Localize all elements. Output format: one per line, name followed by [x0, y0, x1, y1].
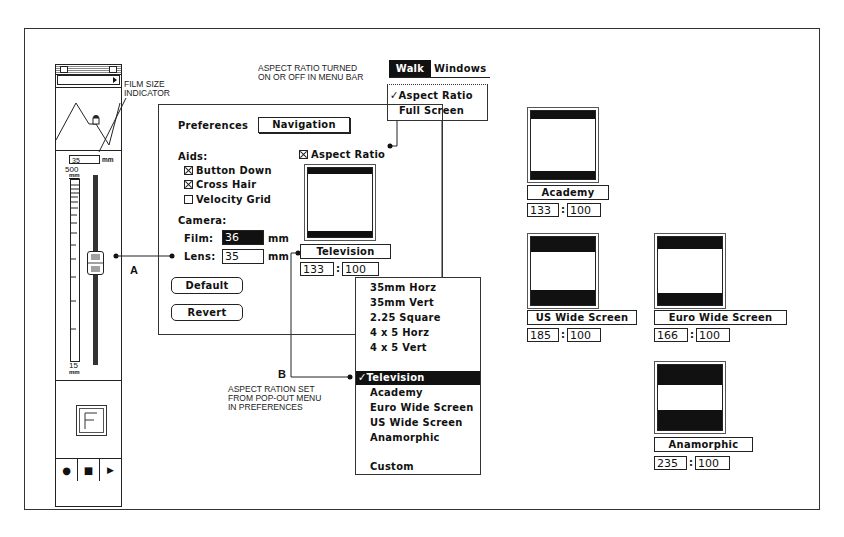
revert-button[interactable]: Revert: [171, 304, 243, 321]
menubar-divider: [389, 77, 490, 78]
ratio-separator: :: [561, 203, 565, 216]
checkbox-unchecked-icon[interactable]: [184, 195, 193, 204]
anamorphic-ratio-width[interactable]: 235: [654, 456, 687, 470]
aspect-button-euro-wide-screen[interactable]: Euro Wide Screen: [654, 310, 787, 325]
aspect-preview-television: [304, 164, 376, 241]
ratio-separator: :: [561, 328, 565, 341]
aspect-button-academy[interactable]: Academy: [527, 185, 609, 200]
lens-input[interactable]: 35: [222, 249, 264, 264]
aids-label: Aids:: [178, 150, 207, 163]
aspect-button-us-wide-screen[interactable]: US Wide Screen: [527, 310, 637, 325]
film-label: Film:: [184, 232, 213, 245]
us-wide-ratio-height[interactable]: 100: [567, 328, 601, 342]
checkmark-icon: ✓: [358, 371, 367, 384]
ratio-separator: :: [336, 262, 340, 275]
aspect-popout-menu: 35mm Horz 35mm Vert 2.25 Square 4 x 5 Ho…: [355, 277, 481, 475]
menu-item-aspect-ratio[interactable]: ✓Aspect Ratio: [390, 89, 473, 102]
ratio-height-input[interactable]: 100: [342, 262, 379, 276]
checkmark-icon: ✓: [390, 89, 399, 102]
menu-item-35mm-horz[interactable]: 35mm Horz: [356, 281, 480, 295]
checkbox-checked-icon[interactable]: [184, 166, 193, 175]
menu-item-custom[interactable]: Custom: [356, 460, 480, 474]
academy-ratio-height[interactable]: 100: [567, 203, 601, 217]
film-input[interactable]: 36: [222, 230, 264, 245]
ratio-width-input[interactable]: 133: [300, 262, 334, 276]
camera-label: Camera:: [178, 214, 227, 227]
aspect-preview-academy: [527, 107, 599, 183]
checkbox-button-down[interactable]: Button Down: [184, 164, 272, 177]
callout-label-a: A: [130, 264, 138, 276]
default-button[interactable]: Default: [171, 277, 243, 294]
aspect-ratio-checkbox[interactable]: Aspect Ratio: [299, 148, 385, 161]
euro-wide-ratio-height[interactable]: 100: [696, 328, 730, 342]
menu-item-4x5-horz[interactable]: 4 x 5 Horz: [356, 326, 480, 340]
menu-item-television[interactable]: ✓Television: [356, 371, 480, 385]
section-popup-navigation[interactable]: Navigation: [258, 117, 350, 133]
callout-label-b: B: [278, 368, 286, 380]
euro-wide-ratio-width[interactable]: 166: [654, 328, 688, 342]
lens-unit: mm: [268, 250, 289, 263]
menu-item-2-25-square[interactable]: 2.25 Square: [356, 311, 480, 325]
checkbox-cross-hair[interactable]: Cross Hair: [184, 178, 256, 191]
aspect-menu-annotation: ASPECT RATIO TURNED ON OR OFF IN MENU BA…: [258, 64, 363, 82]
menu-item-us-wide-screen[interactable]: US Wide Screen: [356, 416, 480, 430]
anamorphic-ratio-height[interactable]: 100: [695, 456, 730, 470]
menu-walk[interactable]: Walk: [389, 60, 431, 77]
aspect-popup-button[interactable]: Television: [300, 244, 391, 259]
menu-item-academy[interactable]: Academy: [356, 386, 480, 400]
menu-item-anamorphic[interactable]: Anamorphic: [356, 431, 480, 445]
film-unit: mm: [268, 232, 289, 245]
menu-windows[interactable]: Windows: [434, 60, 486, 77]
us-wide-ratio-width[interactable]: 185: [527, 328, 559, 342]
preferences-title: Preferences: [178, 119, 248, 132]
aspect-button-anamorphic[interactable]: Anamorphic: [654, 437, 753, 452]
checkbox-checked-icon[interactable]: [299, 150, 308, 159]
menu-item-35mm-vert[interactable]: 35mm Vert: [356, 296, 480, 310]
checkbox-velocity-grid[interactable]: Velocity Grid: [184, 193, 271, 206]
checkbox-checked-icon[interactable]: [184, 180, 193, 189]
menu-item-euro-wide-screen[interactable]: Euro Wide Screen: [356, 401, 480, 415]
ratio-separator: :: [690, 328, 694, 341]
aspect-preview-anamorphic: [654, 361, 726, 434]
aspect-preview-euro-wide-screen: [654, 233, 726, 309]
ratio-separator: :: [689, 456, 693, 469]
aspect-preview-us-wide-screen: [527, 233, 599, 309]
popout-annotation: ASPECT RATION SET FROM POP-OUT MENU IN P…: [228, 385, 321, 412]
menu-item-4x5-vert[interactable]: 4 x 5 Vert: [356, 341, 480, 355]
lens-label: Lens:: [184, 250, 215, 263]
academy-ratio-width[interactable]: 133: [527, 203, 559, 217]
